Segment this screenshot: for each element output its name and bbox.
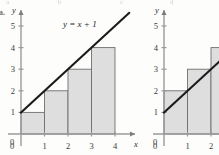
left-chart-canvas: 01234501234yxy = x + 1 — [8, 0, 148, 155]
bar-3 — [68, 69, 92, 134]
y-tick-label-3: 3 — [154, 64, 158, 74]
y-tick-label-1: 1 — [154, 107, 158, 117]
left-riemann-chart: 01234501234yxy = x + 1 — [8, 0, 148, 155]
x-axis-arrowhead — [130, 131, 135, 136]
right-chart-canvas: 012345012y — [153, 0, 219, 155]
y-tick-label-5: 5 — [11, 21, 15, 31]
bar-2 — [45, 91, 69, 134]
y-tick-label-4: 4 — [11, 43, 16, 53]
y-tick-label-4: 4 — [154, 43, 159, 53]
y-axis-label: y — [11, 5, 16, 15]
left-chart-panel: 01234501234yxy = x + 1 — [8, 0, 148, 155]
x-tick-label-4: 4 — [113, 141, 118, 151]
equation-annotation: y = x + 1 — [62, 19, 97, 29]
y-tick-label-2: 2 — [11, 86, 15, 96]
x-axis-label: x — [133, 139, 138, 149]
bar-4 — [92, 48, 116, 134]
x-tick-label-0: 0 — [10, 141, 14, 151]
y-tick-label-3: 3 — [11, 64, 15, 74]
bar-1 — [164, 91, 188, 134]
x-tick-label-3: 3 — [89, 141, 93, 151]
y-axis-arrowhead — [161, 10, 166, 15]
y-axis-label: y — [154, 5, 159, 15]
x-tick-label-2: 2 — [66, 141, 70, 151]
bar-1 — [21, 112, 45, 134]
y-tick-label-5: 5 — [154, 21, 158, 31]
figure-item-letter: a. — [0, 8, 5, 17]
x-tick-label-2: 2 — [209, 141, 213, 151]
bar-3 — [211, 48, 219, 134]
right-chart-panel: 012345012y — [153, 0, 219, 155]
right-riemann-chart: 012345012y — [153, 0, 219, 155]
x-tick-label-1: 1 — [185, 141, 189, 151]
y-tick-label-2: 2 — [154, 86, 158, 96]
x-tick-label-1: 1 — [42, 141, 46, 151]
figure-page: a b c d a. 01234501234yxy = x + 1 012345… — [0, 0, 219, 155]
x-tick-label-0: 0 — [153, 141, 157, 151]
y-tick-label-1: 1 — [11, 107, 15, 117]
y-axis-arrowhead — [18, 10, 23, 15]
